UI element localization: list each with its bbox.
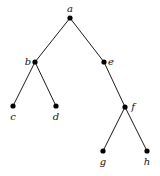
edge-e-f <box>104 62 125 107</box>
tree-labels: abecdfgh <box>10 3 150 167</box>
node-b <box>32 59 37 64</box>
node-label-f: f <box>130 101 137 112</box>
edge-b-c <box>13 62 35 106</box>
edge-b-d <box>35 62 56 106</box>
node-label-e: e <box>108 56 114 67</box>
node-label-b: b <box>25 56 31 67</box>
edge-f-h <box>125 107 147 151</box>
node-a <box>67 15 72 20</box>
node-c <box>10 103 15 108</box>
node-h <box>144 148 149 153</box>
tree-nodes <box>10 15 149 153</box>
node-label-a: a <box>67 3 73 14</box>
tree-diagram: abecdfgh <box>0 0 160 176</box>
node-f <box>122 104 127 109</box>
edge-f-g <box>103 107 125 151</box>
node-d <box>53 103 58 108</box>
node-label-g: g <box>100 156 106 167</box>
edge-a-b <box>35 18 70 62</box>
tree-edges <box>13 18 147 151</box>
node-label-h: h <box>144 156 150 167</box>
node-label-c: c <box>10 111 16 122</box>
node-g <box>100 148 105 153</box>
edge-a-e <box>70 18 104 62</box>
node-e <box>101 59 106 64</box>
node-label-d: d <box>53 111 59 122</box>
